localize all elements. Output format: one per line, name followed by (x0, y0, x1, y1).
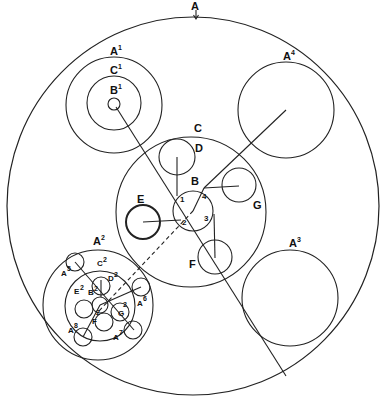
svg-text:1: 1 (118, 83, 122, 90)
svg-text:6: 6 (143, 295, 147, 302)
svg-text:1: 1 (180, 195, 185, 204)
circle-B1 (108, 98, 120, 110)
label-A2: A (93, 235, 101, 247)
label-A1: A (110, 45, 118, 57)
svg-text:1: 1 (118, 44, 122, 51)
label-G2: G (118, 309, 124, 318)
label-F: F (189, 258, 196, 270)
circle-A3 (242, 250, 338, 346)
circle-A7 (124, 321, 142, 339)
label-C1: C (110, 64, 118, 76)
diagram-canvas: A A 1 C 1 B 1 A 4 C D B E G F A 3 1 2 3 … (0, 0, 381, 398)
circle-G (222, 168, 256, 202)
label-G: G (253, 199, 262, 211)
svg-text:7: 7 (119, 329, 123, 336)
svg-text:2: 2 (101, 234, 105, 241)
svg-text:2: 2 (103, 256, 107, 263)
label-C: C (194, 122, 202, 134)
svg-text:2: 2 (182, 218, 187, 227)
line-A4 (204, 110, 286, 188)
svg-text:4: 4 (291, 49, 295, 56)
svg-text:3: 3 (204, 214, 209, 223)
label-B1: B (110, 84, 118, 96)
circle-A (7, 17, 379, 395)
svg-text:3: 3 (297, 236, 301, 243)
svg-text:5: 5 (67, 265, 71, 272)
svg-text:2: 2 (94, 285, 98, 292)
label-A: A (191, 0, 199, 12)
svg-text:2: 2 (114, 271, 118, 278)
svg-text:8: 8 (74, 322, 78, 329)
label-F2: F (92, 317, 97, 326)
svg-text:2: 2 (123, 301, 127, 308)
svg-text:1: 1 (118, 63, 122, 70)
svg-text:4: 4 (202, 192, 207, 201)
svg-text:2: 2 (96, 309, 100, 316)
circle-E2 (75, 300, 93, 318)
label-B: B (191, 175, 199, 187)
svg-text:2: 2 (80, 284, 84, 291)
label-A4: A (283, 50, 291, 62)
spoke-F (214, 214, 215, 258)
label-D: D (195, 142, 203, 154)
label-E: E (137, 193, 144, 205)
line-A5-A7 (75, 262, 134, 330)
label-A3: A (289, 237, 297, 249)
